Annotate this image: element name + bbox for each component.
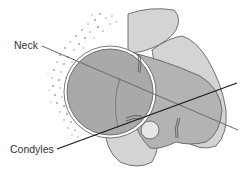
condyles-label: Condyles [10, 143, 54, 155]
neck-label: Neck [14, 39, 38, 51]
notch [141, 121, 159, 139]
anatomy-diagram: Neck Condyles [0, 0, 250, 179]
